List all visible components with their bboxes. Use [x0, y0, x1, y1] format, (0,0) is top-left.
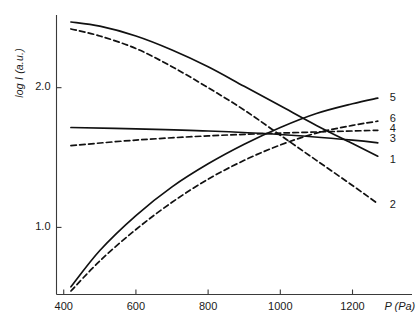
x-tick-label-400: 400 — [39, 300, 89, 312]
curve-2 — [71, 29, 378, 204]
curve-label-1: 1 — [390, 153, 396, 165]
chart-figure: log I (a.u.) 1.02.0 40060080010001200 12… — [0, 0, 416, 328]
y-tick-label-2.0: 2.0 — [35, 80, 50, 92]
curves-group — [71, 22, 378, 291]
curve-label-3: 3 — [390, 132, 396, 144]
plot-area — [0, 0, 416, 328]
x-tick-label-800: 800 — [183, 300, 233, 312]
y-axis-title-text: log I (a.u.) — [13, 48, 25, 98]
curve-label-2: 2 — [390, 198, 396, 210]
curve-label-6: 6 — [390, 112, 396, 124]
y-tick-label-1.0: 1.0 — [35, 220, 50, 232]
y-axis-title: log I (a.u.) — [8, 18, 30, 128]
x-axis-title: P (Pa) — [385, 300, 416, 312]
x-tick-label-600: 600 — [111, 300, 161, 312]
curve-6 — [71, 121, 378, 291]
x-tick-label-1000: 1000 — [255, 300, 305, 312]
curve-label-5: 5 — [390, 91, 396, 103]
x-tick-label-1200: 1200 — [328, 300, 378, 312]
curve-5 — [71, 98, 378, 287]
